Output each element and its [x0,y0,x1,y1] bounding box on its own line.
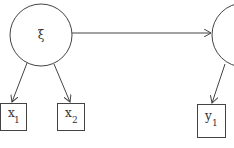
observed-node-y1: y 1 [198,105,226,138]
node-label-y1: y [204,109,212,123]
edge-eta-y1 [212,64,225,103]
observed-node-x2: x 2 [58,104,85,131]
edge-xi-x1 [12,63,27,102]
node-label-x2: x [65,106,72,120]
latent-node-eta [212,3,234,67]
observed-node-x1: x 1 [1,104,27,131]
node-subscript-x1: 1 [14,115,20,125]
node-subscript-x2: 2 [72,115,78,125]
node-label-xi: ξ [38,28,45,42]
node-subscript-y1: 1 [212,118,218,128]
latent-node-xi: ξ [10,4,72,66]
edge-xi-x2 [54,64,70,102]
path-diagram: ξ x 1 x 2 y 1 [0,0,234,148]
